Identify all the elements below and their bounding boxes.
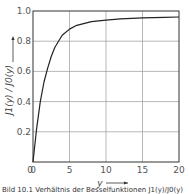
y-tick-label: 0.4	[17, 97, 32, 107]
chart: 051015200.20.40.60.81.00yJ1(y) / J0(y)	[0, 0, 189, 194]
x-axis-arrowhead	[124, 181, 128, 184]
y-tick-label: 1.0	[17, 6, 32, 16]
origin-label: 0	[27, 165, 33, 175]
y-axis-label: J1(y) / J0(y)	[4, 65, 14, 117]
x-tick-label: 15	[137, 165, 148, 175]
x-tick-label: 10	[100, 165, 112, 175]
x-tick-label: 20	[173, 165, 185, 175]
figure-caption: Bild 10.1 Verhältnis der Besselfunktione…	[2, 186, 183, 194]
y-axis-arrowhead	[11, 36, 14, 40]
y-tick-label: 0.6	[17, 66, 32, 76]
x-tick-label: 5	[67, 165, 73, 175]
y-tick-label: 0.8	[17, 36, 32, 46]
y-tick-label: 0.2	[17, 127, 31, 137]
